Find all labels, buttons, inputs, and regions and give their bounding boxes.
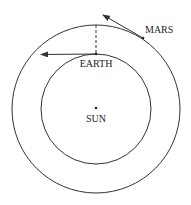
sun-dot [95,107,98,110]
mars-label: MARS [145,24,173,35]
sun-label: SUN [86,113,106,124]
orbit-diagram: SUN EARTH MARS [0,0,191,205]
earth-label: EARTH [80,58,113,69]
earth-velocity-arrow [41,54,96,55]
